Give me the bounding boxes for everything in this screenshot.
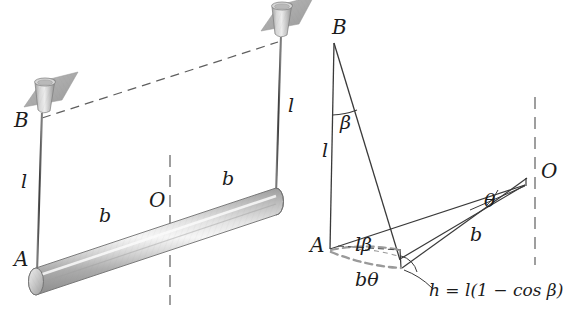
label-string-right-length: l	[288, 96, 294, 115]
rod-displaced	[402, 178, 527, 268]
mount-cone-inner	[38, 80, 53, 85]
label-half-rod-right-diagram: b	[470, 225, 482, 244]
label-point-a-right: A	[310, 235, 324, 255]
label-center-o-left: O	[149, 190, 165, 210]
label-arc-b-theta: bθ	[355, 270, 379, 289]
ceiling-reference-line	[42, 42, 278, 118]
label-half-rod-right: b	[222, 169, 234, 188]
label-string-left-length: l	[21, 172, 27, 191]
rod-shadow-line	[40, 204, 276, 283]
mount-cone-inner	[275, 4, 290, 9]
label-point-b-right: B	[332, 17, 347, 37]
ceiling-mount-right	[261, 0, 314, 37]
theta-guide-line	[470, 186, 525, 210]
suspension-string-right	[276, 37, 281, 192]
label-string-length-right: l	[322, 141, 328, 160]
rod-end-connector	[400, 249, 401, 268]
height-leader-line	[404, 270, 432, 288]
rod-upper-guide	[400, 185, 525, 259]
label-point-a-left: A	[14, 249, 28, 269]
ceiling-mount-left	[24, 72, 78, 113]
figure-svg	[0, 0, 573, 320]
left-diagram-group	[24, 0, 314, 305]
label-point-o-right: O	[541, 161, 557, 181]
label-point-b-left: B	[14, 110, 29, 130]
rod-end-cap-a-texture	[29, 268, 44, 295]
label-angle-theta: θ	[484, 191, 495, 210]
label-angle-beta: β	[340, 113, 351, 132]
label-half-rod-left: b	[99, 206, 111, 225]
label-arc-l-beta: lβ	[355, 235, 372, 254]
string-displaced	[334, 43, 400, 260]
physics-figure: B A O l l b b B A O l β θ lβ bθ b h = l(…	[0, 0, 573, 320]
suspension-string-left	[37, 113, 42, 270]
string-at-rest	[330, 43, 334, 249]
label-height-equation: h = l(1 − cos β)	[429, 282, 563, 299]
